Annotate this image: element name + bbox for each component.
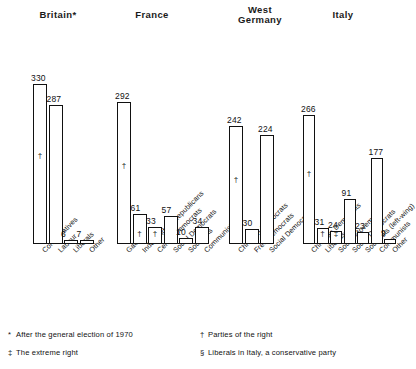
bar-marker-icon: † bbox=[33, 151, 47, 160]
footnote-3: ‡The extreme right bbox=[8, 348, 78, 357]
bar-labour bbox=[49, 105, 63, 243]
bar-marker-icon: ‡ bbox=[330, 229, 342, 238]
bar-value-label: 30 bbox=[243, 218, 253, 228]
bar-marker-icon: † bbox=[229, 175, 243, 184]
bar-value-label: 292 bbox=[115, 91, 130, 101]
footnote-marker-icon: † bbox=[200, 330, 208, 339]
footnote-marker-icon: * bbox=[8, 330, 16, 339]
footnote-text: After the general election of 1970 bbox=[16, 330, 133, 339]
bar-christian-democrats bbox=[303, 115, 315, 243]
bar-value-label: 61 bbox=[131, 203, 141, 213]
bar-value-label: 23 bbox=[355, 221, 365, 231]
bar-value-label: 7 bbox=[77, 229, 82, 239]
bar-value-label: 330 bbox=[31, 73, 46, 83]
footnote-marker-icon: ‡ bbox=[8, 348, 16, 357]
bar-free-democrats bbox=[245, 229, 259, 243]
group-title-france: France bbox=[92, 9, 212, 20]
bar-christian-democrats bbox=[229, 126, 243, 243]
bar-marker-icon: † bbox=[117, 161, 131, 170]
bar-communists bbox=[195, 227, 209, 243]
footnote-4: §Liberals in Italy, a conservative party bbox=[200, 348, 336, 357]
bar-value-label: 9 bbox=[381, 228, 386, 238]
bar-gaullist bbox=[117, 102, 131, 243]
bar-social-democrats bbox=[344, 199, 356, 243]
group-baseline bbox=[33, 243, 94, 244]
bar-value-label: 34 bbox=[193, 216, 203, 226]
group-baseline bbox=[229, 243, 274, 244]
bar-marker-icon: † bbox=[148, 229, 162, 238]
bar-value-label: 31 bbox=[315, 217, 325, 227]
bar-marker-icon: † bbox=[303, 169, 315, 178]
bar-value-label: 266 bbox=[301, 104, 316, 114]
bar-marker-icon: † bbox=[133, 229, 147, 238]
bar-conservatives bbox=[33, 84, 47, 243]
footnote-1: *After the general election of 1970 bbox=[8, 330, 133, 339]
bar-marker-icon: † bbox=[317, 229, 329, 238]
bar-socialists-left-wing bbox=[357, 232, 369, 243]
footnote-marker-icon: § bbox=[200, 348, 208, 357]
footnote-2: †Parties of the right bbox=[200, 330, 273, 339]
bar-value-label: 57 bbox=[162, 205, 172, 215]
group-baseline bbox=[117, 243, 209, 244]
bar-value-label: 91 bbox=[342, 188, 352, 198]
bar-value-label: 10 bbox=[176, 227, 186, 237]
bar-value-label: 6 bbox=[61, 229, 66, 239]
bar-value-label: 177 bbox=[369, 147, 384, 157]
footnote-text: Parties of the right bbox=[208, 330, 273, 339]
footnote-text: Liberals in Italy, a conservative party bbox=[208, 348, 336, 357]
group-title-italy: Italy bbox=[283, 9, 403, 20]
bar-value-label: 287 bbox=[47, 94, 62, 104]
bar-value-label: 224 bbox=[258, 124, 273, 134]
bar-social-democrats bbox=[260, 135, 274, 243]
bar-value-label: 242 bbox=[227, 115, 242, 125]
bar-value-label: 33 bbox=[146, 216, 156, 226]
footnote-text: The extreme right bbox=[16, 348, 78, 357]
group-baseline bbox=[303, 243, 396, 244]
